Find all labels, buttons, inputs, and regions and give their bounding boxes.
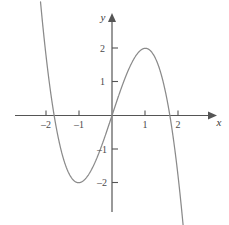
x-tick-label-pos1: 1 — [143, 119, 148, 130]
y-tick-label-neg2: –2 — [96, 177, 107, 188]
y-tick-label-neg1: –1 — [96, 144, 107, 155]
plot-canvas: –2 –1 1 2 2 1 –1 –2 y x — [0, 0, 229, 225]
y-axis-label: y — [100, 11, 106, 23]
graph-figure: –2 –1 1 2 2 1 –1 –2 y x — [0, 0, 229, 225]
x-tick-label-neg1: –1 — [73, 119, 84, 130]
x-tick-label-pos2: 2 — [176, 119, 181, 130]
x-tick-label-neg2: –2 — [40, 119, 51, 130]
y-tick-label-pos2: 2 — [100, 43, 105, 54]
y-tick-label-pos1: 1 — [100, 76, 105, 87]
x-axis-label: x — [216, 116, 222, 128]
y-axis-arrowhead — [108, 13, 116, 22]
